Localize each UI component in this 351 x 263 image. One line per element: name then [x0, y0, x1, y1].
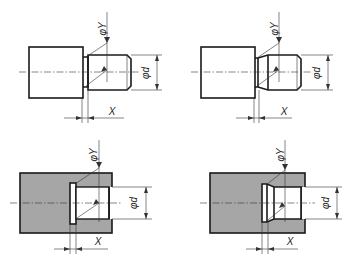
undercut-groove — [70, 183, 76, 224]
label-phi-y: φY — [97, 21, 108, 36]
tapered-neck — [255, 55, 301, 90]
label-phi-d: φd — [140, 67, 151, 80]
label-x: X — [286, 236, 294, 247]
panel-internal-straight-undercut: φY φd X — [10, 140, 152, 254]
label-x: X — [94, 236, 102, 247]
label-phi-d: φd — [311, 67, 322, 80]
label-phi-y: φY — [269, 21, 280, 36]
label-phi-d: φd — [128, 197, 139, 210]
label-phi-y: φY — [88, 147, 99, 162]
panel-external-tapered-undercut: φY φd X — [191, 12, 333, 123]
panel-external-straight-undercut: φY φd X — [19, 12, 162, 123]
label-x: X — [108, 106, 116, 117]
shaft-body — [29, 47, 83, 98]
shaft-body — [201, 47, 255, 98]
drawing-canvas: φY φd X φY φd — [0, 0, 351, 263]
threaded-portion — [88, 55, 131, 90]
label-phi-d: φd — [320, 197, 331, 210]
label-phi-y: φY — [275, 147, 286, 162]
panel-internal-tapered-undercut: φY φd X — [200, 140, 342, 254]
label-x: X — [280, 106, 288, 117]
